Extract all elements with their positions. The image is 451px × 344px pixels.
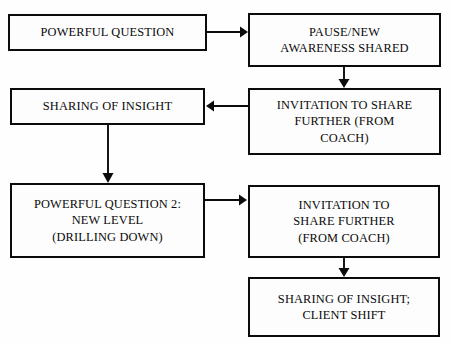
arrow-powerful-question-two-to-invitation-two (205, 195, 247, 206)
node-invitation-to-share-further-1[interactable]: INVITATION TO SHARE FURTHER (FROM COACH) (248, 88, 441, 155)
node-sharing-of-insight[interactable]: SHARING OF INSIGHT (10, 88, 205, 125)
node-powerful-question[interactable]: POWERFUL QUESTION (8, 14, 207, 51)
node-sharing-of-insight-client-shift[interactable]: SHARING OF INSIGHT; CLIENT SHIFT (248, 277, 440, 337)
arrow-pause-to-invitation-one (339, 67, 350, 88)
node-powerful-question-2[interactable]: POWERFUL QUESTION 2: NEW LEVEL (DRILLING… (10, 183, 205, 258)
node-pause-new-awareness-shared[interactable]: PAUSE/NEW AWARENESS SHARED (248, 13, 441, 67)
flowchart-canvas: POWERFUL QUESTION PAUSE/NEW AWARENESS SH… (0, 0, 451, 344)
arrow-sharing-insight-to-powerful-question-two (103, 125, 114, 183)
arrow-powerful-question-to-pause (207, 27, 248, 38)
arrow-invitation-two-to-client-shift (339, 258, 350, 277)
node-invitation-to-share-further-2[interactable]: INVITATION TO SHARE FURTHER (FROM COACH) (248, 185, 440, 258)
arrow-invitation-one-to-sharing-insight (206, 101, 248, 112)
